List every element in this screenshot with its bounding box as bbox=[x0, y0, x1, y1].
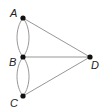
edge-a-d bbox=[23, 18, 90, 57]
edge-b-c-right bbox=[23, 57, 29, 96]
graph-diagram: A B C D bbox=[0, 0, 104, 112]
label-a: A bbox=[9, 7, 17, 19]
node-b bbox=[20, 54, 25, 59]
label-d: D bbox=[91, 59, 99, 71]
label-c: C bbox=[10, 97, 18, 109]
edge-b-c-left bbox=[17, 57, 23, 96]
node-a bbox=[20, 15, 25, 20]
node-c bbox=[20, 93, 25, 98]
label-b: B bbox=[9, 56, 16, 68]
edge-a-b-left bbox=[17, 18, 23, 57]
edge-c-d bbox=[23, 57, 90, 96]
edges bbox=[17, 18, 90, 96]
edge-a-b-right bbox=[23, 18, 29, 57]
